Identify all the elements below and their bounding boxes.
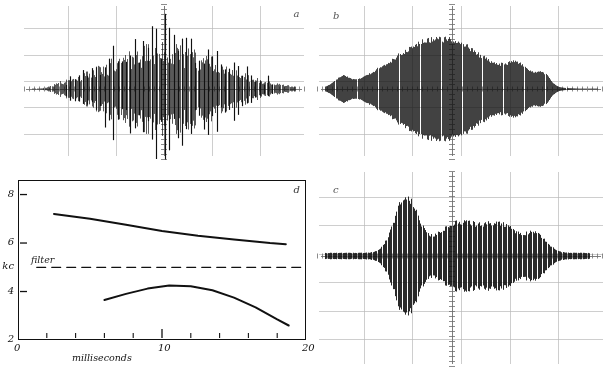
panel-label-a: a <box>294 8 300 19</box>
frequency-chart-panel-d: d filter <box>18 180 306 340</box>
y-axis-tick-8: 8 <box>0 188 14 199</box>
y-axis-tick-2: 2 <box>0 333 14 344</box>
x-axis-tick-20: 20 <box>302 342 315 353</box>
waveform-trace-b <box>315 2 607 160</box>
oscilloscope-panel-a: a <box>20 2 308 160</box>
x-axis-tick-10: 10 <box>158 342 171 353</box>
y-axis-tick-4: 4 <box>0 285 14 296</box>
waveform-trace-c <box>315 168 607 368</box>
y-axis-unit-label: kc <box>0 260 14 271</box>
x-axis-title: milliseconds <box>72 352 132 363</box>
chart-series-layer <box>18 180 306 340</box>
oscilloscope-panel-b: b <box>315 2 607 160</box>
waveform-trace-a <box>20 2 308 160</box>
panel-label-c: c <box>333 184 339 195</box>
panel-label-b: b <box>333 10 340 21</box>
panel-label-d: d <box>294 184 300 195</box>
oscilloscope-panel-c: c <box>315 168 607 368</box>
x-axis-tick-0: 0 <box>14 342 20 353</box>
y-axis-tick-6: 6 <box>0 236 14 247</box>
filter-annotation: filter <box>31 254 54 265</box>
